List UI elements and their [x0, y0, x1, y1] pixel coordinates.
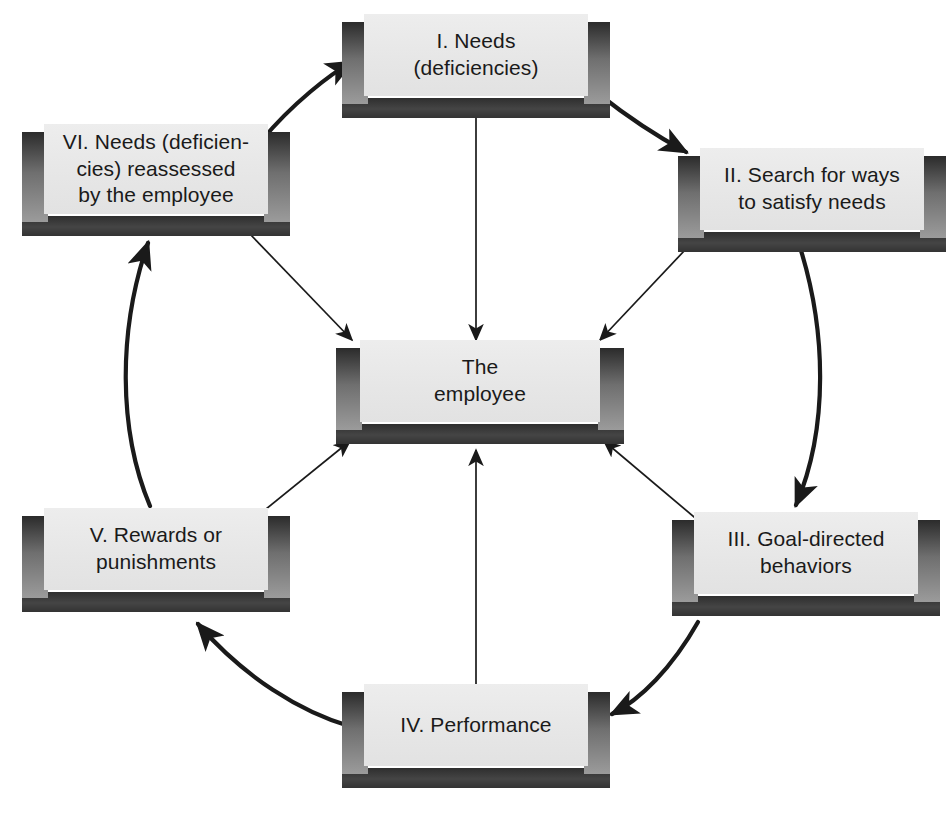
- node-label-i: I. Needs (deficiencies): [407, 28, 544, 82]
- node-box-performance[interactable]: IV. Performance: [342, 684, 610, 788]
- ring-arrow-i-to-ii: [600, 95, 686, 152]
- node-box-rewards-or-punishments[interactable]: V. Rewards or punishments: [22, 508, 290, 612]
- node-label-ii: II. Search for ways to satisfy needs: [718, 162, 906, 216]
- box-shadow-slab: [342, 98, 610, 118]
- node-label-iii: III. Goal-directed behaviors: [721, 526, 890, 580]
- node-box-goal-directed-behaviors[interactable]: III. Goal-directed behaviors: [672, 512, 940, 616]
- node-box-needs-deficiencies[interactable]: I. Needs (deficiencies): [342, 14, 610, 118]
- box-shadow-slab: [22, 592, 290, 612]
- spoke-arrow-iii-to-center: [604, 441, 700, 522]
- ring-arrow-iv-to-v: [198, 624, 352, 727]
- spoke-arrow-vi-to-center: [248, 232, 352, 340]
- box-shadow-slab: [672, 596, 940, 616]
- box-shadow-slab: [342, 768, 610, 788]
- box-face: III. Goal-directed behaviors: [694, 512, 918, 594]
- node-box-search-for-ways-to-satisfy-needs[interactable]: II. Search for ways to satisfy needs: [678, 148, 946, 252]
- box-face: The employee: [360, 340, 600, 422]
- box-left-bevel: [336, 348, 362, 430]
- diagram-canvas: I. Needs (deficiencies) II. Search for w…: [0, 0, 950, 816]
- center-label: The employee: [428, 354, 532, 408]
- ring-arrow-iii-to-iv: [612, 622, 698, 714]
- node-box-needs-reassessed-by-the-employee[interactable]: VI. Needs (deficien- cies) reassessed by…: [22, 124, 290, 236]
- node-label-vi: VI. Needs (deficien- cies) reassessed by…: [57, 129, 255, 210]
- box-face: V. Rewards or punishments: [44, 508, 268, 590]
- node-label-v: V. Rewards or punishments: [84, 522, 228, 576]
- box-shadow-slab: [678, 232, 946, 252]
- box-face: II. Search for ways to satisfy needs: [700, 148, 924, 230]
- box-shadow-slab: [22, 216, 290, 236]
- box-right-bevel: [598, 348, 624, 430]
- ring-arrow-ii-to-iii: [796, 238, 820, 505]
- node-box-the-employee[interactable]: The employee: [336, 340, 624, 444]
- box-face: VI. Needs (deficien- cies) reassessed by…: [44, 124, 268, 214]
- box-shadow-slab: [336, 424, 624, 444]
- ring-arrow-v-to-vi: [126, 243, 150, 506]
- box-face: I. Needs (deficiencies): [364, 14, 588, 96]
- node-label-iv: IV. Performance: [394, 712, 557, 739]
- box-face: IV. Performance: [364, 684, 588, 766]
